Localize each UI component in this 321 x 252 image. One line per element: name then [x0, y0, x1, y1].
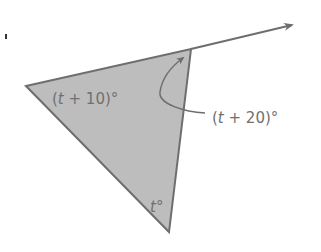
exterior-angle-label: (t + 20)° [212, 109, 278, 127]
extended-ray [191, 25, 292, 49]
left-angle-label: (t + 10)° [52, 90, 118, 108]
margin-mark [5, 34, 7, 39]
triangle-diagram: (t + 10)° (t + 20)° t° [0, 0, 321, 252]
bottom-angle-label: t° [150, 198, 163, 216]
